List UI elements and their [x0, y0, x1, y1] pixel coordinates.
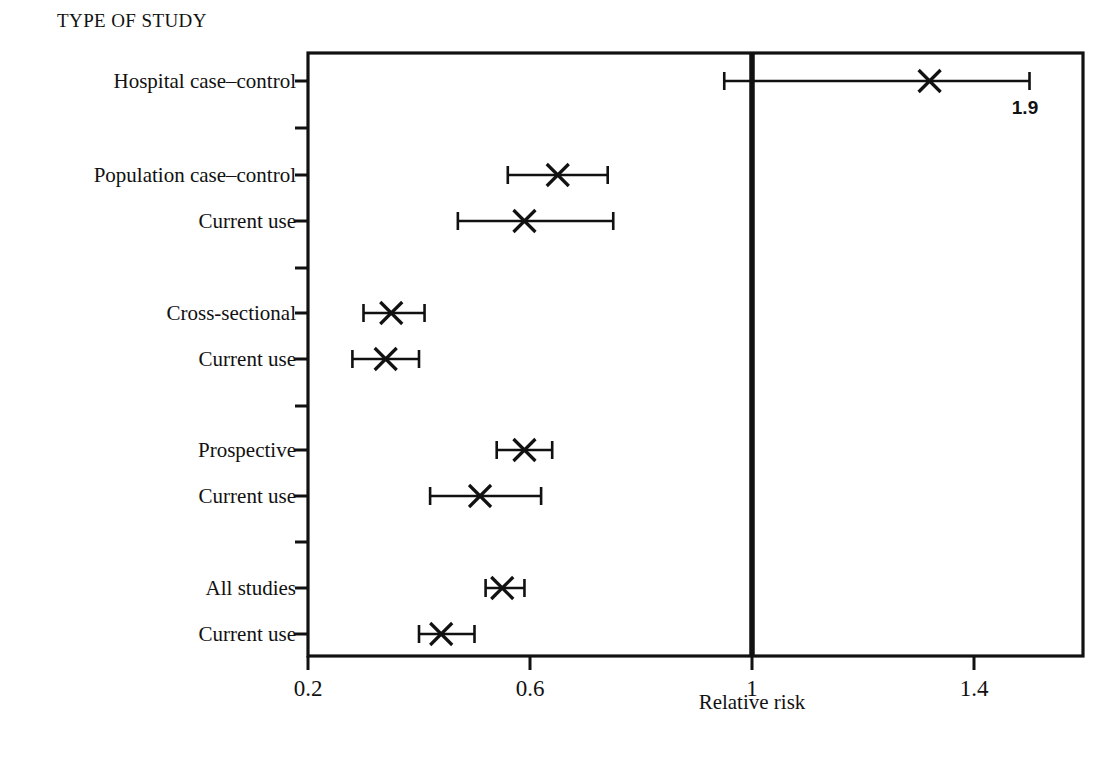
x-axis-ticks — [308, 656, 974, 670]
plot-frame — [308, 53, 1083, 656]
row-label-current-use-all: Current use — [199, 622, 296, 647]
x-tick-label-0: 0.2 — [294, 676, 323, 702]
x-tick-label-3: 1.4 — [960, 676, 989, 702]
data-series — [352, 70, 1029, 645]
forest-row-8 — [419, 623, 475, 645]
forest-row-1 — [508, 164, 608, 186]
row-label-current-use-population: Current use — [199, 209, 296, 234]
forest-row-0 — [724, 70, 1029, 92]
forest-row-6 — [430, 485, 541, 507]
upper-ci-annotation: 1.9 — [1012, 97, 1038, 119]
x-tick-label-1: 0.6 — [516, 676, 545, 702]
forest-row-5 — [497, 439, 553, 461]
forest-row-4 — [352, 348, 419, 370]
row-label-population-case-control: Population case–control — [94, 163, 296, 188]
forest-row-2 — [458, 210, 613, 232]
y-axis-ticks — [295, 81, 308, 634]
forest-row-7 — [486, 577, 525, 599]
row-label-current-use-cross: Current use — [199, 347, 296, 372]
row-label-cross-sectional: Cross-sectional — [167, 301, 296, 326]
row-label-current-use-prospective: Current use — [199, 484, 296, 509]
forest-plot-figure: TYPE OF STUDY Hospital case–control Popu… — [0, 0, 1107, 760]
row-label-all-studies: All studies — [206, 576, 296, 601]
row-label-hospital-case-control: Hospital case–control — [113, 69, 296, 94]
row-label-prospective: Prospective — [198, 438, 296, 463]
x-axis-title: Relative risk — [699, 690, 806, 715]
row-label-column: Hospital case–control Population case–co… — [0, 0, 296, 760]
forest-row-3 — [364, 302, 425, 324]
